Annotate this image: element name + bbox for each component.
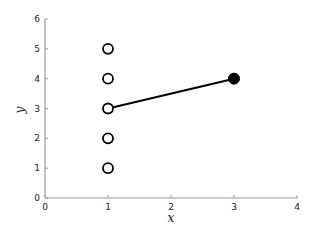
y-tick-label: 6 <box>34 14 40 24</box>
axes <box>45 19 297 198</box>
open-point <box>103 74 113 84</box>
x-tick-label: 3 <box>231 202 237 212</box>
open-point <box>103 44 113 54</box>
y-tick-label: 5 <box>34 44 40 54</box>
filled-point <box>229 73 240 84</box>
open-point <box>103 104 113 114</box>
x-axis-label: x <box>168 211 175 225</box>
y-tick-label: 2 <box>34 133 40 143</box>
y-tick-label: 3 <box>34 104 40 114</box>
y-tick-label: 0 <box>34 193 40 203</box>
line-segment <box>108 79 234 109</box>
y-tick-label: 4 <box>34 74 40 84</box>
plot-area <box>103 44 240 173</box>
x-tick-label: 1 <box>105 202 111 212</box>
y-tick-label: 1 <box>34 163 40 173</box>
open-point <box>103 163 113 173</box>
chart: 012340123456 x y <box>0 0 313 237</box>
ticks: 012340123456 <box>34 14 300 212</box>
x-tick-label: 4 <box>294 202 300 212</box>
x-tick-label: 0 <box>42 202 48 212</box>
y-axis-label: y <box>13 106 27 114</box>
open-point <box>103 133 113 143</box>
